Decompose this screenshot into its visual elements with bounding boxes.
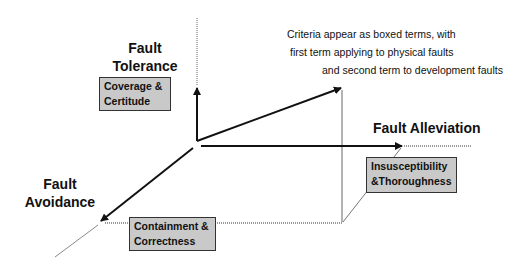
criteria-note-line1: Criteria appear as boxed terms, with [287,25,456,43]
fault-avoidance-label: Fault Avoidance [15,175,105,211]
fault-tolerance-label: Fault Tolerance [100,39,190,75]
insusceptibility-thoroughness-line2: &Thoroughness [371,174,452,189]
insusceptibility-thoroughness-box: Insusceptibility &Thoroughness [366,157,457,193]
coverage-certitude-line2: Certitude [104,94,166,109]
fault-tolerance-line2: Tolerance [100,57,190,75]
fault-avoidance-line1: Fault [15,175,105,193]
resultant-vector-arrow [197,88,341,141]
avoidance-axis-arrow [101,148,193,221]
containment-correctness-line2: Correctness [134,234,211,249]
fault-tolerance-line1: Fault [100,39,190,57]
containment-correctness-line1: Containment & [134,219,211,234]
fault-alleviation-label: Fault Alleviation [373,119,481,137]
criteria-note-line2: first term applying to physical faults [290,43,453,61]
coverage-certitude-line1: Coverage & [104,79,166,94]
coverage-certitude-box: Coverage & Certitude [99,77,171,111]
fault-avoidance-line2: Avoidance [15,193,105,211]
avoidance-axis-extension [55,225,98,257]
insusceptibility-thoroughness-line1: Insusceptibility [371,159,452,174]
criteria-note-line3: and second term to development faults [322,61,503,79]
containment-correctness-box: Containment & Correctness [129,217,216,251]
